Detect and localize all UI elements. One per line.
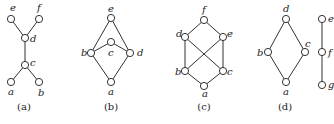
edge-b-a <box>268 52 286 82</box>
node-f <box>318 48 325 55</box>
node-c <box>107 38 114 45</box>
node-label: f <box>201 4 208 15</box>
node-c <box>301 48 308 55</box>
node-a <box>107 78 114 85</box>
node-label: f <box>327 47 334 58</box>
node-e <box>107 14 114 21</box>
edge-d-a <box>111 53 130 82</box>
node-d <box>282 15 289 22</box>
node-d <box>126 49 133 56</box>
node-b <box>181 67 188 74</box>
node-a <box>7 78 14 85</box>
node-label: e <box>108 3 114 14</box>
node-d <box>181 33 188 40</box>
caption: (c) <box>197 101 211 112</box>
node-a <box>282 78 289 85</box>
diagram-d: dbcaefg(d) <box>257 3 334 112</box>
node-g <box>318 81 325 88</box>
caption: (d) <box>278 101 292 112</box>
node-label: g <box>328 79 334 90</box>
node-f <box>200 16 207 23</box>
node-e <box>7 15 14 22</box>
node-label: a <box>108 86 114 97</box>
node-label: b <box>175 66 181 77</box>
edge-c-a <box>286 52 305 82</box>
node-label: c <box>30 57 36 68</box>
node-b <box>87 49 94 56</box>
node-label: e <box>10 2 16 13</box>
caption: (a) <box>17 101 31 112</box>
node-e <box>219 33 226 40</box>
edge-d-c <box>286 19 305 52</box>
node-label: f <box>36 2 43 13</box>
node-label: c <box>305 38 311 49</box>
node-label: d <box>30 33 36 44</box>
caption: (b) <box>104 101 118 112</box>
node-label: c <box>227 66 233 77</box>
edge-d-b <box>268 19 286 52</box>
node-label: a <box>283 86 289 97</box>
diagram-a: efdcab(a) <box>7 2 44 112</box>
node-d <box>21 34 28 41</box>
node-c <box>219 67 226 74</box>
node-label: b <box>257 47 263 58</box>
node-b <box>264 48 271 55</box>
node-label: b <box>38 87 44 98</box>
node-f <box>35 15 42 22</box>
node-label: c <box>108 47 114 58</box>
node-c <box>21 61 28 68</box>
node-b <box>35 78 42 85</box>
diagram-b: ecbda(b) <box>81 3 143 112</box>
node-label: e <box>328 13 334 24</box>
node-label: d <box>137 47 143 58</box>
diagram-c: fdebca(c) <box>175 4 233 112</box>
node-label: a <box>202 88 208 99</box>
node-label: a <box>8 86 14 97</box>
hasse-diagrams-figure: efdcab(a) ecbda(b) fdebca(c) dbcaefg(d) <box>0 0 334 124</box>
node-label: e <box>227 28 233 39</box>
node-label: b <box>81 47 87 58</box>
node-label: d <box>283 3 289 14</box>
node-e <box>318 15 325 22</box>
node-label: d <box>176 28 182 39</box>
